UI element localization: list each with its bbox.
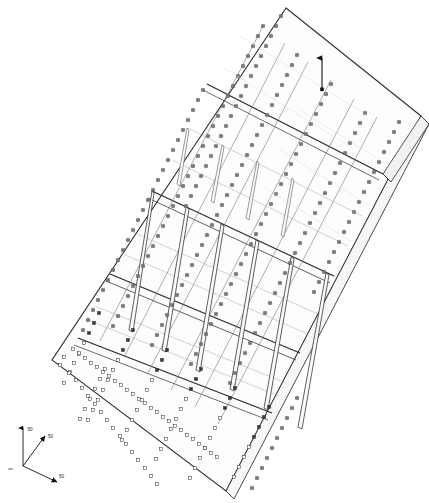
cad-drawing-canvas: 50 50 50 om [0,0,429,503]
axis-origin-label: om [8,467,13,471]
axis-x-label: 50 [59,474,65,479]
axis-y: 50 [23,434,54,466]
axis-z-label: 50 [28,427,34,432]
axis-y-label: 50 [48,434,54,439]
coordinate-triad: 50 50 50 om [8,427,65,482]
axis-x: 50 [23,466,65,482]
panel-assembly [52,8,429,499]
axis-z: 50 [23,427,33,466]
isometric-panel-drawing: 50 50 50 om [0,0,429,503]
